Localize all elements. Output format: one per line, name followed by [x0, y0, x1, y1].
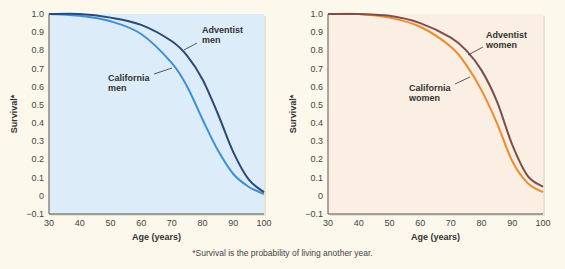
series-label: California: [108, 73, 151, 83]
series-label: Adventist: [202, 25, 243, 35]
y-tick-label: 1.0: [310, 9, 323, 19]
y-tick-label: 0.5: [31, 100, 44, 110]
y-tick-label: 0.5: [310, 100, 323, 110]
y-tick-label: 0.1: [31, 173, 44, 183]
series-label: men: [108, 83, 127, 93]
chart-men: −0.100.10.20.30.40.50.60.70.80.91.030405…: [9, 9, 272, 242]
x-tick-label: 90: [228, 218, 238, 228]
x-tick-label: 50: [384, 218, 394, 228]
x-tick-label: 50: [105, 218, 115, 228]
chart-women: −0.100.10.20.30.40.50.60.70.80.91.030405…: [288, 9, 551, 242]
y-tick-label: 0.6: [310, 82, 323, 92]
x-tick-label: 70: [167, 218, 177, 228]
x-axis-label: Age (years): [132, 232, 181, 242]
y-tick-label: 0.9: [310, 27, 323, 37]
y-axis-label: Survival*: [288, 94, 298, 133]
y-tick-label: 0.4: [31, 118, 44, 128]
y-tick-label: 0.8: [31, 45, 44, 55]
series-label: men: [202, 35, 221, 45]
y-tick-label: 0.8: [310, 45, 323, 55]
y-tick-label: 0.7: [31, 64, 44, 74]
y-tick-label: 0.6: [31, 82, 44, 92]
series-label: California: [409, 83, 452, 93]
x-tick-label: 30: [323, 218, 333, 228]
y-tick-label: 0.2: [31, 154, 44, 164]
y-tick-label: 0.4: [310, 118, 323, 128]
x-tick-label: 40: [354, 218, 364, 228]
x-tick-label: 70: [446, 218, 456, 228]
y-tick-label: −0.1: [305, 209, 323, 219]
y-tick-label: 0: [39, 191, 44, 201]
x-tick-label: 60: [136, 218, 146, 228]
x-tick-label: 80: [477, 218, 487, 228]
y-tick-label: 0.1: [310, 173, 323, 183]
x-tick-label: 80: [198, 218, 208, 228]
y-tick-label: 0.9: [31, 27, 44, 37]
y-axis-label: Survival*: [9, 94, 19, 133]
series-label: women: [408, 93, 440, 103]
y-tick-label: 0.3: [310, 136, 323, 146]
x-axis-label: Age (years): [411, 232, 460, 242]
plot-area: [49, 14, 264, 214]
x-tick-label: 100: [256, 218, 271, 228]
x-tick-label: 30: [44, 218, 54, 228]
y-tick-label: 0.2: [310, 154, 323, 164]
series-label: women: [485, 40, 517, 50]
survival-charts: −0.100.10.20.30.40.50.60.70.80.91.030405…: [0, 0, 565, 269]
series-label: Adventist: [486, 30, 527, 40]
footnote: *Survival is the probability of living a…: [0, 248, 565, 258]
x-tick-label: 40: [75, 218, 85, 228]
y-tick-label: 0.7: [310, 64, 323, 74]
y-tick-label: 0: [318, 191, 323, 201]
x-tick-label: 100: [535, 218, 550, 228]
x-tick-label: 60: [415, 218, 425, 228]
y-tick-label: −0.1: [26, 209, 44, 219]
y-tick-label: 1.0: [31, 9, 44, 19]
y-tick-label: 0.3: [31, 136, 44, 146]
x-tick-label: 90: [507, 218, 517, 228]
